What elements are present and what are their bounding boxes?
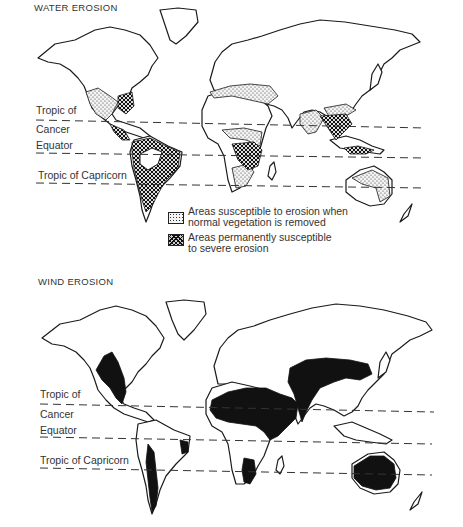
legend-dotted-line-2: normal vegetation is removed (188, 217, 348, 228)
wind-southern-africa (242, 458, 256, 484)
dotted-swatch-icon (168, 212, 184, 224)
wind-tropic-capricorn-label: Tropic of Capricorn (40, 454, 129, 466)
wind-tropic-cancer-label-2: Cancer (40, 408, 74, 420)
legend-crosshatch: Areas permanently susceptible to severe … (168, 232, 332, 254)
wind-erosion-title: WIND EROSION (38, 276, 113, 287)
se-asia-islands (334, 422, 392, 444)
greenland (166, 300, 206, 340)
water-tropic-cancer-label-1: Tropic of (36, 104, 76, 116)
legend-dotted: Areas susceptible to erosion when normal… (168, 206, 348, 228)
wind-tropic-cancer-label-1: Tropic of (40, 388, 80, 400)
legend-crosshatch-line-2: to severe erosion (188, 243, 332, 254)
south-america (136, 420, 190, 514)
madagascar (276, 456, 284, 474)
crosshatch-east-us (118, 92, 134, 114)
water-tropic-cancer-label-2: Cancer (36, 123, 70, 135)
north-america (38, 27, 158, 138)
dotted-india (300, 110, 324, 134)
greenland (160, 8, 198, 44)
water-equator-label: Equator (36, 139, 73, 151)
new-zealand (410, 492, 422, 510)
water-tropic-capricorn-label: Tropic of Capricorn (38, 169, 127, 181)
madagascar (268, 162, 276, 180)
crosshatch-swatch-icon (168, 234, 184, 246)
new-zealand (400, 204, 412, 222)
wind-equator-label: Equator (40, 424, 77, 436)
